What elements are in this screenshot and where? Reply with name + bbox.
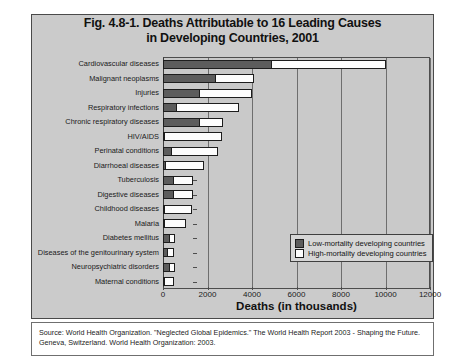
bar-segment bbox=[173, 176, 193, 185]
bar-row bbox=[163, 173, 430, 188]
legend-swatch-low-icon bbox=[295, 239, 304, 248]
bar-segment bbox=[164, 132, 222, 141]
source-note-box: Source: World Health Organization. "Negl… bbox=[31, 322, 434, 356]
x-tick-label: 12000 bbox=[419, 290, 441, 299]
bar-segment bbox=[163, 89, 200, 98]
bar-segment bbox=[163, 74, 216, 83]
category-label: Diarrhoeal diseases bbox=[94, 159, 159, 174]
bar-segment bbox=[165, 161, 204, 170]
bar-row bbox=[163, 144, 430, 159]
category-label: Diabetes mellitus bbox=[103, 231, 159, 246]
bar-segment bbox=[215, 74, 254, 83]
bar-segment bbox=[167, 248, 174, 257]
category-label: Digestive diseases bbox=[97, 188, 159, 203]
bar-segment bbox=[199, 89, 252, 98]
bar-segment bbox=[173, 190, 193, 199]
legend: Low-mortality developing countries High-… bbox=[290, 234, 433, 262]
bar-row bbox=[163, 115, 430, 130]
bar-segment bbox=[163, 103, 177, 112]
x-tick-label: 0 bbox=[161, 290, 165, 299]
category-label: Perinatal conditions bbox=[94, 144, 159, 159]
bar-segment bbox=[169, 263, 176, 272]
page-title: Fig. 4.8-1. Deaths Attributable to 16 Le… bbox=[32, 16, 433, 46]
legend-item-low: Low-mortality developing countries bbox=[295, 238, 427, 248]
bar-segment bbox=[171, 147, 218, 156]
bar-segment bbox=[164, 219, 186, 228]
category-axis: Cardiovascular diseasesMalignant neoplas… bbox=[34, 57, 161, 289]
category-label: Tuberculosis bbox=[117, 173, 159, 188]
bar-segment bbox=[164, 277, 174, 286]
category-label: Injuries bbox=[135, 86, 159, 101]
legend-label-high: High-mortality developing countries bbox=[308, 249, 427, 258]
bar-row bbox=[163, 130, 430, 145]
x-tick-label: 10000 bbox=[374, 290, 396, 299]
bar-row bbox=[163, 188, 430, 203]
title-line-1: Fig. 4.8-1. Deaths Attributable to 16 Le… bbox=[84, 16, 382, 30]
category-label: Malignant neoplasms bbox=[89, 72, 159, 87]
x-axis-title: Deaths (in thousands) bbox=[163, 300, 430, 312]
title-line-2: in Developing Countries, 2001 bbox=[32, 31, 433, 46]
category-label: Respiratory infections bbox=[88, 101, 159, 116]
bar-segment bbox=[169, 234, 176, 243]
bar-row bbox=[163, 101, 430, 116]
x-tick-label: 4000 bbox=[243, 290, 261, 299]
bar-row bbox=[163, 260, 430, 275]
legend-swatch-high-icon bbox=[295, 249, 304, 258]
category-label: Chronic respiratory diseases bbox=[65, 115, 159, 130]
category-label: Diseases of the genitourinary system bbox=[38, 246, 159, 261]
category-label: HIV/AIDS bbox=[127, 130, 159, 145]
bar-segment bbox=[163, 60, 272, 69]
source-note: Source: World Health Organization. "Negl… bbox=[39, 328, 426, 348]
legend-label-low: Low-mortality developing countries bbox=[308, 239, 425, 248]
bar-row bbox=[163, 159, 430, 174]
category-label: Maternal conditions bbox=[95, 275, 159, 290]
bar-row bbox=[163, 202, 430, 217]
bar-segment bbox=[163, 118, 200, 127]
x-tick-label: 2000 bbox=[199, 290, 217, 299]
bar-row bbox=[163, 86, 430, 101]
bar-segment bbox=[176, 103, 238, 112]
bar-segment bbox=[199, 118, 223, 127]
legend-item-high: High-mortality developing countries bbox=[295, 248, 427, 258]
bar-segment bbox=[271, 60, 386, 69]
bar-segment bbox=[164, 205, 192, 214]
category-label: Cardiovascular diseases bbox=[78, 57, 159, 72]
bar-row bbox=[163, 217, 430, 232]
x-tick-label: 8000 bbox=[332, 290, 350, 299]
x-tick-label: 6000 bbox=[288, 290, 306, 299]
category-label: Malaria bbox=[135, 217, 159, 232]
figure-root: Fig. 4.8-1. Deaths Attributable to 16 Le… bbox=[0, 0, 467, 363]
bar-row bbox=[163, 57, 430, 72]
bar-row bbox=[163, 72, 430, 87]
category-label: Neuropsychiatric disorders bbox=[72, 260, 160, 275]
category-label: Childhood diseases bbox=[94, 202, 159, 217]
